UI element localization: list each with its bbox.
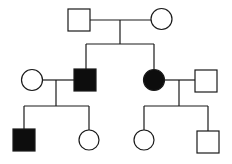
male-unaffected-III-4 [197,131,219,153]
pedigree-lines [24,20,208,131]
male-unaffected-I-1 [68,9,90,31]
male-unaffected-II-4 [195,70,217,92]
pedigree-chart [0,0,232,164]
female-unaffected-II-1 [22,70,43,91]
male-affected-II-2 [74,69,96,91]
female-unaffected-III-3 [134,130,154,150]
female-affected-II-3 [144,70,165,91]
female-unaffected-III-2 [79,130,99,150]
pedigree-individuals [13,9,219,154]
male-affected-III-1 [13,129,35,151]
female-unaffected-I-2 [151,9,172,30]
